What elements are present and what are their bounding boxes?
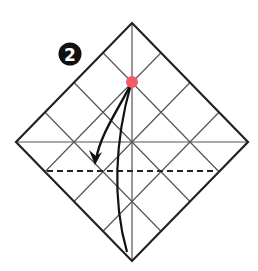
step-badge: 2	[59, 43, 82, 66]
arrowhead-icon	[89, 150, 102, 165]
reference-point-marker	[126, 76, 138, 88]
crease-grid	[16, 23, 248, 261]
step-number: 2	[64, 45, 76, 65]
fold-path-curve	[117, 84, 131, 252]
origami-diagram: 2	[0, 0, 258, 271]
